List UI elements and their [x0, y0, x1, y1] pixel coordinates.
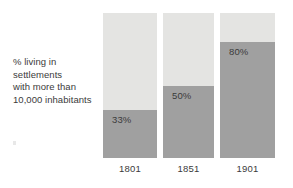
bar-label-1901: 1901: [220, 163, 275, 175]
bar-column-1851: 50% 1851: [163, 13, 214, 158]
bar-value-1801: 33%: [112, 114, 131, 125]
plot-area: 33% 1801 50% 1851 80% 1901: [103, 13, 275, 158]
page-artifact-speck: [13, 141, 16, 145]
bar-column-1901: 80% 1901: [220, 13, 275, 158]
chart-axis-caption: % living in settlements with more than 1…: [13, 56, 105, 106]
bar-label-1801: 1801: [103, 163, 157, 175]
bar-column-1801: 33% 1801: [103, 13, 157, 158]
bar-fill-1901: [220, 42, 275, 158]
bar-value-1901: 80%: [229, 46, 248, 57]
bar-chart-figure: % living in settlements with more than 1…: [0, 0, 293, 188]
caption-line-4: 10,000 inhabitants: [13, 94, 105, 107]
caption-line-1: % living in: [13, 56, 105, 69]
caption-line-2: settlements: [13, 69, 105, 82]
bar-value-1851: 50%: [172, 90, 191, 101]
caption-line-3: with more than: [13, 81, 105, 94]
bar-label-1851: 1851: [163, 163, 214, 175]
